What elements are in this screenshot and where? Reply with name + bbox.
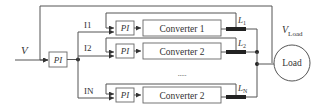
pi-label-n: PI bbox=[120, 90, 130, 100]
inductor-label-1: L1 bbox=[237, 15, 246, 26]
converter-label-n: Converter 2 bbox=[159, 91, 204, 101]
current-label-1: I1 bbox=[84, 20, 92, 30]
pi-label-1: PI bbox=[120, 23, 130, 33]
ellipsis: ..... bbox=[178, 70, 187, 78]
converter-label-1: Converter 1 bbox=[159, 24, 204, 34]
inductor-label-n: LN bbox=[237, 83, 248, 94]
current-label-2: I2 bbox=[84, 43, 92, 53]
parallel-converter-control-diagram: V PI I1 PI Converter 1 L1 I2 PI Converte… bbox=[0, 0, 336, 108]
main-pi-label: PI bbox=[53, 55, 63, 65]
current-label-n: IN bbox=[84, 86, 94, 96]
load-voltage-label: VLoad bbox=[282, 24, 303, 38]
inductor-2 bbox=[226, 50, 246, 54]
inductor-label-2: L2 bbox=[237, 38, 246, 49]
input-label: V bbox=[21, 44, 29, 56]
inductor-1 bbox=[226, 27, 246, 31]
inductor-n bbox=[226, 95, 246, 99]
load-label: Load bbox=[282, 58, 302, 68]
pi-label-2: PI bbox=[120, 46, 130, 56]
converter-label-2: Converter 2 bbox=[159, 47, 204, 57]
